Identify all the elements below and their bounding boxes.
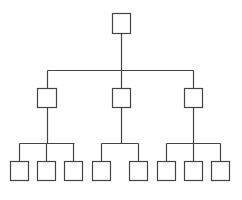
leaf-node <box>158 162 176 181</box>
leaf-node <box>65 162 83 181</box>
leaf-node <box>11 162 29 181</box>
leaf-node <box>185 162 203 181</box>
tree-diagram-svg <box>0 0 242 200</box>
middle-node <box>185 89 203 108</box>
middle-node <box>38 89 57 108</box>
leaf-node <box>93 162 111 181</box>
leaf-node <box>212 162 230 181</box>
leaf-node <box>130 162 148 181</box>
tree-diagram <box>0 0 242 200</box>
leaf-node <box>38 162 56 181</box>
middle-node <box>113 89 131 108</box>
root-node <box>113 14 131 34</box>
